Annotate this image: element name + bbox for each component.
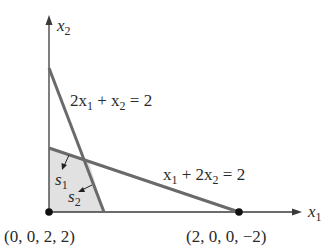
constraint-label-1: 2x1 + x2 = 2 xyxy=(70,91,152,113)
x1-axis-label: x1 xyxy=(307,202,322,224)
x2-axis-label: x2 xyxy=(56,16,71,38)
x1-axis-arrow-icon xyxy=(292,209,302,216)
point-label-origin: (0, 0, 2, 2) xyxy=(4,227,75,246)
constraint-label-2: x1 + 2x2 = 2 xyxy=(163,165,245,187)
diagram-canvas: x2 x1 2x1 + x2 = 2 x1 + 2x2 = 2 s1 s2 (0… xyxy=(0,0,326,247)
x2-axis-arrow-icon xyxy=(46,15,53,25)
point-label-x1-intercept: (2, 0, 0, −2) xyxy=(186,227,266,246)
point-origin xyxy=(45,208,53,216)
point-x1-intercept xyxy=(235,208,243,216)
